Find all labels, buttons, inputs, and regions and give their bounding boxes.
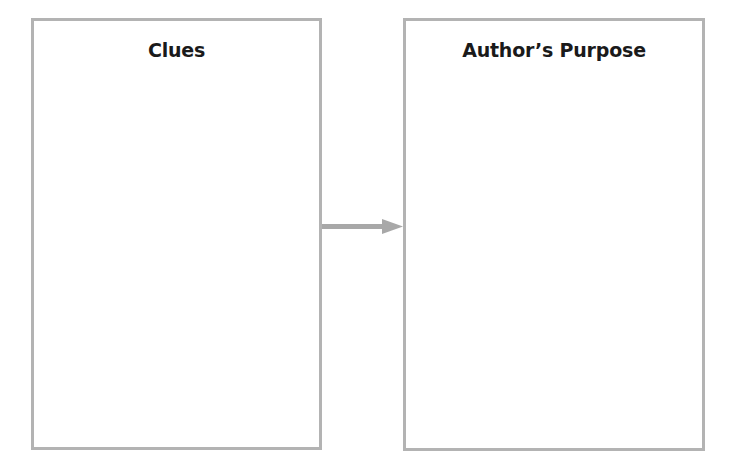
authors-purpose-title: Author’s Purpose <box>406 39 702 61</box>
authors-purpose-box: Author’s Purpose <box>403 18 705 451</box>
clues-box: Clues <box>31 18 322 450</box>
arrow-right-icon <box>322 218 404 234</box>
clues-title: Clues <box>34 39 319 61</box>
